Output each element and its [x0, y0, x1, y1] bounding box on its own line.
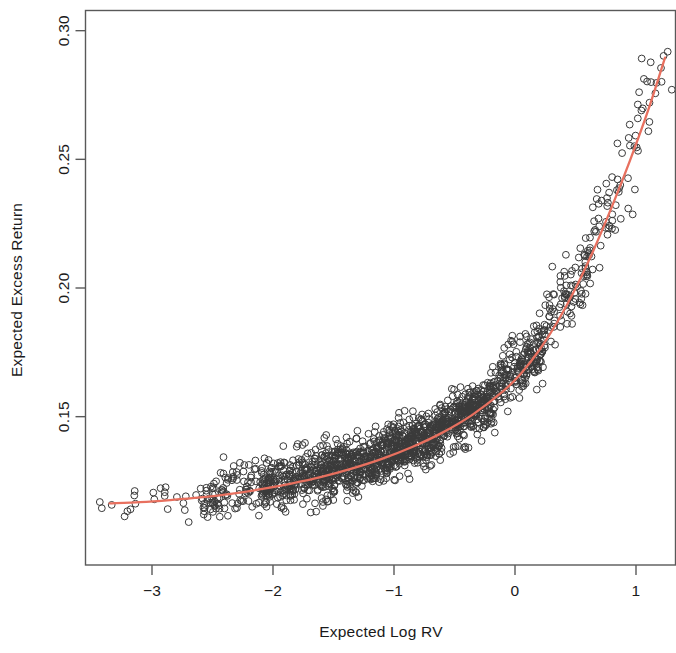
y-tick-label: 0.20 — [55, 272, 72, 303]
scatter-plot-figure: −3−2−101 0.150.200.250.30 Expected Log R… — [0, 0, 676, 653]
x-tick-label: −1 — [385, 582, 403, 599]
y-tick-label: 0.15 — [55, 401, 72, 432]
x-axis-title: Expected Log RV — [319, 623, 443, 640]
y-tick-label: 0.30 — [55, 15, 72, 46]
y-tick-label: 0.25 — [55, 144, 72, 175]
y-axis-title: Expected Excess Return — [8, 203, 25, 377]
plot-canvas: −3−2−101 0.150.200.250.30 Expected Log R… — [0, 0, 676, 653]
x-tick-label: 1 — [632, 582, 641, 599]
x-tick-label: 0 — [511, 582, 520, 599]
x-tick-label: −3 — [143, 582, 161, 599]
x-tick-label: −2 — [264, 582, 282, 599]
